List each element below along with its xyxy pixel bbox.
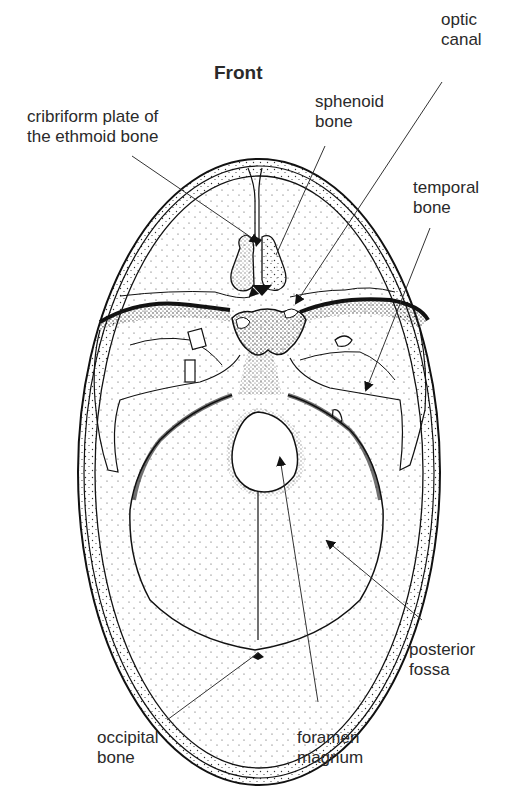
label-posterior-fossa-line2: fossa bbox=[409, 660, 475, 680]
label-occipital-bone: occipital bone bbox=[97, 728, 158, 768]
label-temporal-bone-line2: bone bbox=[413, 198, 479, 218]
label-posterior-fossa-line1: posterior bbox=[409, 640, 475, 660]
label-occipital-bone-line2: bone bbox=[97, 748, 158, 768]
label-optic-canal: optic canal bbox=[441, 10, 482, 50]
label-optic-canal-line1: optic bbox=[441, 10, 482, 30]
label-sphenoid-bone-line2: bone bbox=[315, 112, 384, 132]
label-temporal-bone: temporal bone bbox=[413, 178, 479, 218]
label-occipital-bone-line1: occipital bbox=[97, 728, 158, 748]
label-foramen-magnum: foramen magnum bbox=[297, 728, 363, 768]
label-foramen-magnum-line2: magnum bbox=[297, 748, 363, 768]
label-sphenoid-bone-line1: sphenoid bbox=[315, 92, 384, 112]
label-cribriform-plate-line2: the ethmoid bone bbox=[27, 127, 158, 147]
label-posterior-fossa: posterior fossa bbox=[409, 640, 475, 680]
label-optic-canal-line2: canal bbox=[441, 30, 482, 50]
label-sphenoid-bone: sphenoid bone bbox=[315, 92, 384, 132]
orientation-label-front: Front bbox=[214, 62, 263, 84]
label-foramen-magnum-line1: foramen bbox=[297, 728, 363, 748]
label-cribriform-plate-line1: cribriform plate of bbox=[27, 107, 158, 127]
label-cribriform-plate: cribriform plate of the ethmoid bone bbox=[27, 107, 158, 147]
label-temporal-bone-line1: temporal bbox=[413, 178, 479, 198]
